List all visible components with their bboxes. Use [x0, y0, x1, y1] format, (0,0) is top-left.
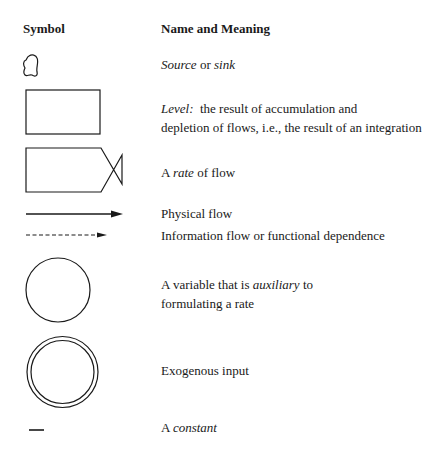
meaning-column-header: Name and Meaning — [161, 21, 270, 37]
information-flow-label: Information flow or functional dependenc… — [161, 226, 385, 245]
cloud-source-sink-icon — [22, 53, 42, 79]
constant-pre: A — [161, 420, 173, 435]
constant-term: constant — [173, 420, 217, 435]
auxiliary-term: auxiliary — [253, 277, 300, 292]
sink-term: sink — [214, 57, 235, 72]
auxiliary-line2: formulating a rate — [161, 294, 313, 313]
rectangle-level-icon — [25, 89, 103, 137]
physical-flow-label: Physical flow — [161, 204, 232, 223]
rate-label: A rate of flow — [161, 163, 235, 182]
dash-constant-icon — [28, 428, 46, 432]
level-description: Level: the result of accumulation and de… — [161, 99, 422, 137]
valve-rate-icon — [25, 146, 125, 194]
source-term: Source — [161, 57, 197, 72]
rate-pre: A — [161, 165, 173, 180]
source-sink-label: Source or sink — [161, 55, 235, 74]
or-text: or — [197, 57, 214, 72]
constant-label: A constant — [161, 418, 217, 437]
solid-arrow-icon — [25, 208, 125, 220]
auxiliary-description: A variable that is auxiliary to formulat… — [161, 275, 313, 313]
auxiliary-post: to — [300, 277, 313, 292]
auxiliary-pre: A variable that is — [161, 277, 253, 292]
double-circle-exogenous-icon — [26, 335, 100, 409]
level-line1: the result of accumulation and — [193, 101, 357, 116]
level-line2: depletion of flows, i.e., the result of … — [161, 118, 422, 137]
level-term: Level: — [161, 101, 193, 116]
dashed-arrow-icon — [25, 229, 109, 241]
rate-post: of flow — [194, 165, 235, 180]
rate-term: rate — [173, 165, 194, 180]
symbol-column-header: Symbol — [23, 21, 65, 37]
circle-auxiliary-icon — [25, 257, 93, 325]
exogenous-label: Exogenous input — [161, 361, 249, 380]
